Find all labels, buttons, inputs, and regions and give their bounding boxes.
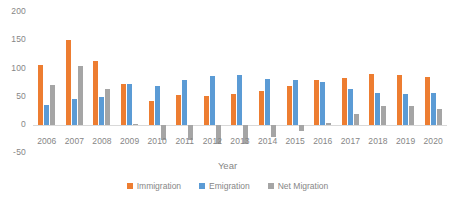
bar-net-migration-2015 <box>299 125 304 131</box>
bar-immigration-2006 <box>38 65 43 125</box>
bar-emigration-2010 <box>155 86 160 125</box>
bar-group <box>392 0 420 153</box>
bar-emigration-2017 <box>348 89 353 125</box>
x-tick-label-2016: 2016 <box>309 136 337 146</box>
x-axis-tick-labels: 2006200720082009201020112012201320142015… <box>33 136 447 150</box>
x-tick-label-2015: 2015 <box>281 136 309 146</box>
bar-immigration-2020 <box>425 77 430 125</box>
bar-net-migration-2019 <box>409 106 414 125</box>
legend-swatch-icon <box>199 183 205 189</box>
bar-group <box>199 0 227 153</box>
bar-immigration-2013 <box>231 94 236 125</box>
y-tick-label: -50 <box>0 148 26 157</box>
bar-immigration-2007 <box>66 40 71 125</box>
bar-net-migration-2007 <box>78 66 83 125</box>
bar-emigration-2012 <box>210 76 215 125</box>
x-tick-label-2007: 2007 <box>61 136 89 146</box>
y-tick-label: 150 <box>0 35 26 44</box>
bar-net-migration-2008 <box>105 89 110 125</box>
bar-group <box>309 0 337 153</box>
x-tick-label-2020: 2020 <box>419 136 447 146</box>
bar-group <box>88 0 116 153</box>
x-tick-label-2017: 2017 <box>337 136 365 146</box>
bar-group <box>254 0 282 153</box>
bar-emigration-2006 <box>44 105 49 125</box>
x-tick-label-2013: 2013 <box>226 136 254 146</box>
plot-bars <box>33 0 447 153</box>
bar-group <box>419 0 447 153</box>
bar-net-migration-2018 <box>381 106 386 125</box>
legend-item-net-migration[interactable]: Net Migration <box>268 181 329 191</box>
bar-net-migration-2006 <box>50 85 55 125</box>
bar-immigration-2012 <box>204 96 209 125</box>
bar-group <box>364 0 392 153</box>
bottom-artifact-strip <box>0 203 455 211</box>
y-tick-label: 100 <box>0 64 26 73</box>
legend-label: Immigration <box>137 181 181 191</box>
bar-net-migration-2017 <box>354 114 359 125</box>
bar-immigration-2015 <box>287 86 292 125</box>
bar-immigration-2018 <box>369 74 374 125</box>
legend-label: Net Migration <box>278 181 329 191</box>
bar-group <box>337 0 365 153</box>
bar-group <box>226 0 254 153</box>
bar-immigration-2011 <box>176 95 181 125</box>
legend-swatch-icon <box>268 183 274 189</box>
bar-net-migration-2020 <box>437 109 442 125</box>
bar-group <box>171 0 199 153</box>
x-tick-label-2009: 2009 <box>116 136 144 146</box>
x-tick-label-2019: 2019 <box>392 136 420 146</box>
legend-item-emigration[interactable]: Emigration <box>199 181 250 191</box>
bar-immigration-2008 <box>93 61 98 125</box>
x-tick-label-2018: 2018 <box>364 136 392 146</box>
bar-emigration-2019 <box>403 94 408 125</box>
x-tick-label-2008: 2008 <box>88 136 116 146</box>
x-tick-label-2011: 2011 <box>171 136 199 146</box>
bar-immigration-2019 <box>397 75 402 125</box>
legend-swatch-icon <box>127 183 133 189</box>
chart-legend: ImmigrationEmigrationNet Migration <box>0 181 455 191</box>
legend-item-immigration[interactable]: Immigration <box>127 181 181 191</box>
y-tick-label: 200 <box>0 7 26 16</box>
bar-immigration-2014 <box>259 91 264 125</box>
bar-immigration-2017 <box>342 78 347 125</box>
x-tick-label-2014: 2014 <box>254 136 282 146</box>
y-tick-label: 50 <box>0 92 26 101</box>
bar-group <box>143 0 171 153</box>
bar-emigration-2007 <box>72 99 77 125</box>
x-tick-label-2010: 2010 <box>143 136 171 146</box>
bar-immigration-2016 <box>314 80 319 125</box>
bar-emigration-2009 <box>127 84 132 125</box>
bar-emigration-2020 <box>431 93 436 125</box>
bar-emigration-2013 <box>237 75 242 125</box>
migration-bar-chart: 200150100500-50 200620072008200920102011… <box>0 0 455 211</box>
bar-group <box>281 0 309 153</box>
bar-group <box>61 0 89 153</box>
y-tick-label: 0 <box>0 120 26 129</box>
bar-net-migration-2016 <box>326 123 331 125</box>
bar-emigration-2008 <box>99 97 104 125</box>
x-tick-label-2006: 2006 <box>33 136 61 146</box>
legend-label: Emigration <box>209 181 250 191</box>
bar-emigration-2014 <box>265 79 270 125</box>
bar-immigration-2009 <box>121 84 126 125</box>
x-tick-label-2012: 2012 <box>199 136 227 146</box>
bar-group <box>116 0 144 153</box>
bar-net-migration-2009 <box>133 124 138 125</box>
bar-emigration-2015 <box>293 80 298 125</box>
bar-group <box>33 0 61 153</box>
bar-immigration-2010 <box>149 101 154 125</box>
bar-emigration-2016 <box>320 82 325 125</box>
bar-emigration-2011 <box>182 80 187 125</box>
y-axis: 200150100500-50 <box>0 0 30 211</box>
bar-emigration-2018 <box>375 93 380 125</box>
x-axis-title: Year <box>0 160 455 171</box>
